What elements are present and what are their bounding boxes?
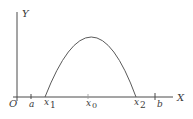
label-x1-subscript: 1 [50,100,56,110]
y-axis-label: Y [22,8,30,19]
label-a: a [29,99,34,109]
label-x2: x [134,97,139,107]
label-b: b [157,99,163,109]
label-x2-subscript: 2 [140,100,146,110]
label-x0: x [86,98,91,108]
origin-label: O [9,98,17,109]
x-axis-label: X [176,92,185,103]
label-x0-subscript: 0 [92,101,97,110]
diagram-canvas: Y X O a x 1 x 0 x 2 b [0,0,193,119]
label-x1: x [44,97,49,107]
parabola-curve [45,37,136,97]
